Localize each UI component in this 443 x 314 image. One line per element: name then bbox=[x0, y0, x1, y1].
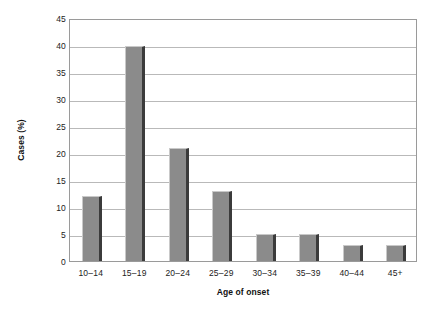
y-axis-tick-label: 35 bbox=[40, 67, 66, 79]
bar[interactable] bbox=[169, 148, 189, 261]
bar-slot bbox=[244, 20, 288, 261]
bar[interactable] bbox=[256, 234, 276, 261]
bar[interactable] bbox=[343, 245, 363, 261]
bar-slot bbox=[70, 20, 114, 261]
x-axis-title: Age of onset bbox=[69, 285, 417, 299]
bar[interactable] bbox=[386, 245, 406, 261]
y-axis-tick-label: 10 bbox=[40, 202, 66, 214]
y-axis-tick-label: 25 bbox=[40, 121, 66, 133]
bar-slot bbox=[157, 20, 201, 261]
bar-slot bbox=[201, 20, 245, 261]
bar-chart-figure: Cases (%) 051015202530354045 10–1415–192… bbox=[0, 0, 443, 314]
y-axis-tick-labels: 051015202530354045 bbox=[40, 19, 66, 262]
x-axis-tick-label: 45+ bbox=[374, 266, 418, 280]
y-axis-tick-label: 30 bbox=[40, 94, 66, 106]
bar-slot bbox=[114, 20, 158, 261]
bar-slot bbox=[375, 20, 419, 261]
x-axis-tick-label: 15–19 bbox=[113, 266, 157, 280]
bar-slot bbox=[288, 20, 332, 261]
x-axis-tick-label: 35–39 bbox=[287, 266, 331, 280]
y-axis-tick-label: 20 bbox=[40, 148, 66, 160]
y-axis-tick-label: 45 bbox=[40, 13, 66, 25]
bar[interactable] bbox=[82, 196, 102, 261]
bar[interactable] bbox=[299, 234, 319, 261]
y-axis-tick-label: 15 bbox=[40, 175, 66, 187]
y-axis-tick-label: 40 bbox=[40, 40, 66, 52]
x-axis-tick-label: 30–34 bbox=[243, 266, 287, 280]
plot-area bbox=[69, 19, 417, 262]
bars-layer bbox=[70, 20, 416, 261]
x-axis-tick-label: 40–44 bbox=[330, 266, 374, 280]
bar[interactable] bbox=[212, 191, 232, 261]
x-axis-tick-labels: 10–1415–1920–2425–2930–3435–3940–4445+ bbox=[69, 266, 417, 280]
bar[interactable] bbox=[125, 46, 145, 261]
bar-slot bbox=[331, 20, 375, 261]
x-axis-tick-label: 25–29 bbox=[200, 266, 244, 280]
x-axis-tick-label: 10–14 bbox=[69, 266, 113, 280]
y-axis-title: Cases (%) bbox=[14, 100, 28, 180]
x-axis-tick-label: 20–24 bbox=[156, 266, 200, 280]
y-axis-tick-label: 5 bbox=[40, 229, 66, 241]
y-axis-tick-label: 0 bbox=[40, 256, 66, 268]
